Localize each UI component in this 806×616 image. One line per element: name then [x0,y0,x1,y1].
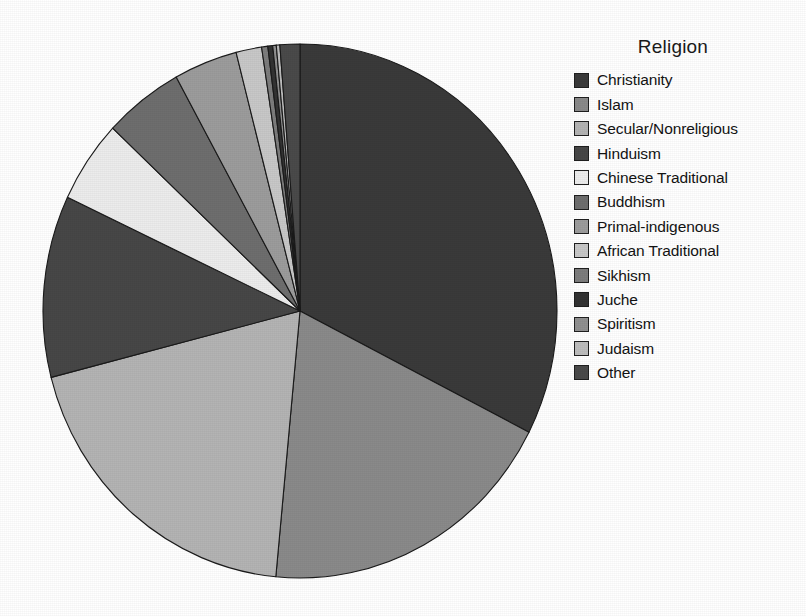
legend-swatch-icon [574,195,589,210]
legend-item[interactable]: Buddhism [566,190,804,214]
legend-item-label: Islam [597,97,634,113]
legend-item[interactable]: Judaism [566,336,804,360]
legend-item[interactable]: Islam [566,92,804,116]
legend-item-label: Juche [597,292,638,308]
legend-item[interactable]: Spiritism [566,312,804,336]
legend-list: ChristianityIslamSecular/NonreligiousHin… [566,68,804,385]
legend-swatch-icon [574,292,589,307]
legend-swatch-icon [574,170,589,185]
legend-item[interactable]: Other [566,361,804,385]
legend-swatch-icon [574,219,589,234]
legend-item-label: Sikhism [597,268,651,284]
legend-swatch-icon [574,268,589,283]
legend-item[interactable]: Sikhism [566,263,804,287]
legend-swatch-icon [574,121,589,136]
pie-chart [26,36,576,592]
legend-item[interactable]: Primal-indigenous [566,214,804,238]
chart-page: Religion ChristianityIslamSecular/Nonrel… [0,0,806,616]
legend-item[interactable]: Christianity [566,68,804,92]
legend-item[interactable]: Secular/Nonreligious [566,117,804,141]
legend-swatch-icon [574,243,589,258]
legend-item-label: Primal-indigenous [597,219,719,235]
legend-item-label: Secular/Nonreligious [597,121,738,137]
legend: Religion ChristianityIslamSecular/Nonrel… [566,36,804,385]
legend-item-label: Spiritism [597,316,656,332]
legend-item-label: Christianity [597,72,672,88]
pie-chart-svg [26,36,576,592]
legend-item-label: Buddhism [597,194,665,210]
legend-item-label: African Traditional [597,243,719,259]
legend-swatch-icon [574,317,589,332]
legend-item[interactable]: Juche [566,288,804,312]
legend-swatch-icon [574,341,589,356]
legend-item-label: Chinese Traditional [597,170,728,186]
legend-swatch-icon [574,365,589,380]
legend-item-label: Other [597,365,635,381]
legend-item-label: Hinduism [597,146,661,162]
legend-swatch-icon [574,97,589,112]
legend-item-label: Judaism [597,341,654,357]
pie-slice-group [43,44,557,578]
legend-item[interactable]: Chinese Traditional [566,166,804,190]
legend-item[interactable]: Hinduism [566,141,804,165]
legend-title: Religion [566,36,780,58]
legend-swatch-icon [574,146,589,161]
legend-swatch-icon [574,73,589,88]
legend-item[interactable]: African Traditional [566,239,804,263]
